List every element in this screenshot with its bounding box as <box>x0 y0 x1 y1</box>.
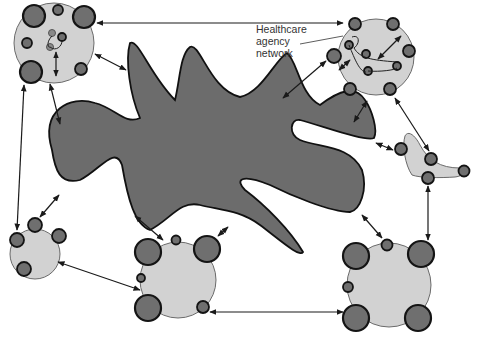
node <box>343 305 369 331</box>
node <box>17 262 31 276</box>
node <box>28 218 42 232</box>
node <box>194 236 220 262</box>
arrow-blob-left <box>40 195 59 217</box>
label-line-3: network <box>256 47 307 59</box>
node <box>384 83 396 95</box>
node <box>405 305 431 331</box>
label-line-2: agency <box>256 35 307 47</box>
node <box>197 301 209 313</box>
arrow-left-bottomcenter <box>58 262 140 290</box>
node <box>382 240 393 251</box>
node <box>425 153 437 165</box>
node <box>53 5 63 15</box>
node <box>135 295 161 321</box>
arrow-blob-crescent <box>376 143 393 150</box>
node <box>408 241 434 267</box>
node <box>172 236 181 245</box>
node <box>75 63 87 75</box>
node <box>343 243 369 269</box>
node <box>395 143 407 155</box>
node <box>327 49 341 63</box>
node <box>422 172 434 184</box>
label-line-1: Healthcare <box>256 23 307 35</box>
node <box>349 18 361 30</box>
arrow-topleft-left <box>17 85 24 230</box>
node <box>22 38 32 48</box>
arrow-blob-bottomright <box>362 215 382 238</box>
node <box>343 282 353 292</box>
node <box>137 274 145 282</box>
network-diagram <box>0 0 483 340</box>
node <box>135 239 161 265</box>
node <box>459 166 470 177</box>
arrow-blob-bottomcenter-right <box>218 227 228 236</box>
node <box>73 6 95 28</box>
node <box>387 18 399 30</box>
node <box>344 83 356 95</box>
node <box>23 5 45 27</box>
arrow-topleft-blob <box>95 54 126 70</box>
node <box>52 229 66 243</box>
healthcare-agency-label: Healthcare agency network <box>256 23 307 59</box>
diagram-canvas: Healthcare agency network <box>0 0 483 340</box>
inner-node <box>58 33 66 41</box>
central-community-blob <box>49 43 375 254</box>
inner-node <box>49 30 56 37</box>
node <box>10 233 24 247</box>
node <box>403 45 415 57</box>
node <box>20 61 42 83</box>
